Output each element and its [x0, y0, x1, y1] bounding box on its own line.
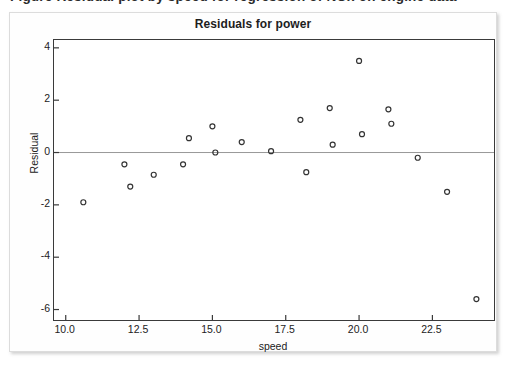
data-point	[304, 170, 309, 175]
data-point	[151, 172, 156, 177]
x-axis-tick-label: 20.0	[348, 323, 368, 335]
data-point	[122, 162, 127, 167]
data-point	[445, 189, 450, 194]
data-point	[186, 136, 191, 141]
y-axis-tick-labels: 420-2-4-6	[24, 39, 50, 319]
data-point	[181, 162, 186, 167]
y-axis-tick-label: -2	[28, 197, 50, 209]
data-point	[360, 132, 365, 137]
x-axis-tick-label: 15.0	[201, 323, 221, 335]
x-axis-tick-labels: 10.012.515.017.520.022.5	[53, 323, 493, 339]
data-point	[210, 124, 215, 129]
page-caption-text: Figure Residual plot by speed for regres…	[10, 0, 457, 4]
y-axis-tick-label: 2	[28, 92, 50, 104]
y-axis-tick-label: -4	[28, 249, 50, 261]
y-axis-tick-label: -6	[28, 302, 50, 314]
x-axis-tick-label: 22.5	[421, 323, 441, 335]
figure-card: Residuals for power 420-2-4-6 Residual 1…	[9, 12, 497, 352]
data-point	[389, 121, 394, 126]
data-point	[330, 142, 335, 147]
plot-area	[53, 39, 495, 321]
data-point	[239, 140, 244, 145]
data-point	[128, 184, 133, 189]
data-point	[386, 107, 391, 112]
data-point	[327, 106, 332, 111]
x-axis-tick-label: 12.5	[128, 323, 148, 335]
data-point	[415, 155, 420, 160]
data-point	[357, 58, 362, 63]
y-axis-tick-label: 4	[28, 40, 50, 52]
y-axis-label-text: Residual	[28, 133, 40, 174]
data-point	[81, 200, 86, 205]
page-caption-strip: Figure Residual plot by speed for regres…	[0, 0, 511, 11]
x-axis-tick-label: 17.5	[275, 323, 295, 335]
x-axis-tick-label: 10.0	[55, 323, 75, 335]
chart-title: Residuals for power	[10, 17, 496, 31]
data-point	[474, 297, 479, 302]
data-point	[298, 117, 303, 122]
scatter-plot-svg	[54, 40, 494, 320]
x-axis-label: speed	[53, 340, 493, 352]
